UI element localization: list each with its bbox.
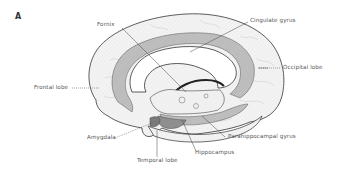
label-fornix: Fornix bbox=[97, 21, 115, 27]
label-occipital-lobe: Occipital lobe bbox=[283, 64, 323, 70]
label-cingulate-gyrus: Cingulate gyrus bbox=[250, 17, 296, 23]
label-frontal-lobe: Frontal lobe bbox=[34, 84, 68, 90]
label-hippocampus: Hippocampus bbox=[195, 149, 234, 155]
thalamus-region bbox=[150, 89, 224, 114]
label-temporal-lobe: Temporal lobe bbox=[137, 157, 178, 163]
label-parahippocampal-gyrus: Parahippocampal gyrus bbox=[228, 133, 296, 139]
label-amygdala: Amygdala bbox=[87, 134, 116, 140]
